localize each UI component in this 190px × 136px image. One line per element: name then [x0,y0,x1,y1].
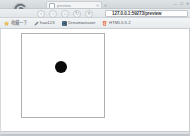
bookmark-label: 收藏一下 [11,20,27,26]
bookmark-item-dreamweaver[interactable]: D Dreamweaver [62,20,96,26]
bookmark-label: hao123 [40,20,55,26]
refresh-button[interactable]: ↻ [73,10,81,18]
pen-icon [34,21,39,26]
canvas-circle-shape [55,61,67,73]
nav-button-group: ‹ › ⌂ ↻ ✕ [37,9,93,18]
back-button[interactable]: ‹ [37,10,45,18]
tab-close-icon[interactable]: ✕ [96,4,99,8]
navigation-toolbar: ‹ › ⌂ ↻ ✕ 127.0.0.1:59273/preview [0,9,190,18]
dreamweaver-icon: D [62,21,67,26]
star-icon [4,21,9,26]
close-button[interactable]: ✕ [186,1,189,6]
page-viewport [0,29,190,136]
tab-preview[interactable]: preview ✕ [46,1,102,9]
browser-window: preview ✕ + — □ ✕ ‹ › ⌂ ↻ ✕ [0,0,190,136]
bookmark-label: HTML5.5.2 [109,20,131,26]
bookmarks-bar: 收藏一下 hao123 D Dreamweaver [0,18,190,29]
stop-button[interactable]: ✕ [85,10,93,18]
maximize-button[interactable]: □ [181,1,183,6]
minimize-button[interactable]: — [174,1,178,6]
window-controls: — □ ✕ [174,1,189,6]
bookmark-label: Dreamweaver [68,20,95,26]
tab-favicon [49,3,55,9]
window-bottom-edge [1,131,190,134]
new-tab-button[interactable]: + [104,2,107,8]
home-button[interactable]: ⌂ [61,10,69,18]
drawing-canvas[interactable] [21,33,105,118]
address-bar-text: 127.0.0.1:59273/preview [112,11,162,17]
address-bar[interactable]: 127.0.0.1:59273/preview [105,10,188,17]
bookmark-item-html5[interactable]: HTML5.5.2 [102,20,130,26]
html5-icon [102,21,107,26]
page-icon [107,12,111,16]
bookmark-item-favorite[interactable]: 收藏一下 [4,20,27,26]
forward-button[interactable]: › [49,10,57,18]
tab-title: preview [57,3,71,8]
bookmark-item-hao123[interactable]: hao123 [34,20,55,26]
